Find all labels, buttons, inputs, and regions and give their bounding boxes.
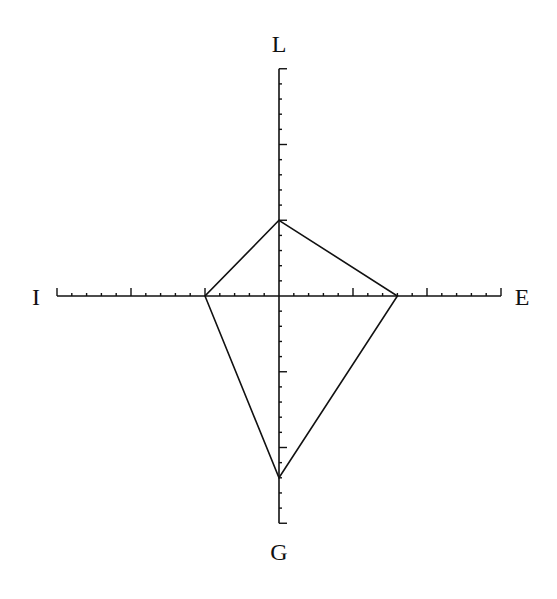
data-polygon [205,220,397,478]
axis-label-right: E [515,284,530,310]
axis-label-bottom: G [270,539,287,565]
axis-label-left: I [32,284,40,310]
kite-chart: L E G I [0,0,557,599]
axes [57,69,501,524]
axis-label-top: L [272,31,287,57]
